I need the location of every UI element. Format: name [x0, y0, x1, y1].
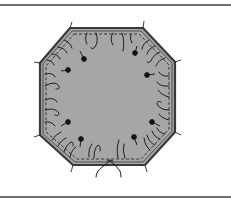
octagon-illustration — [0, 0, 231, 201]
